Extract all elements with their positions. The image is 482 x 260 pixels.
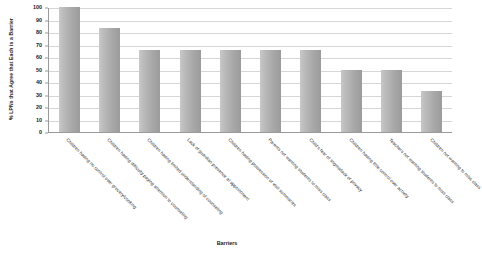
x-axis-title: Barriers bbox=[0, 240, 454, 246]
y-axis-tick-label: 10 bbox=[36, 118, 42, 123]
bar[interactable] bbox=[59, 7, 80, 132]
bar[interactable] bbox=[341, 70, 362, 133]
y-axis-title: % LPNs that Agree that Each is a Barrier bbox=[2, 0, 20, 138]
bar[interactable] bbox=[421, 91, 442, 132]
bar-slot bbox=[250, 8, 290, 132]
y-axis-tick-label: 70 bbox=[36, 43, 42, 48]
x-axis-tick-label: Children having little control over acti… bbox=[331, 136, 371, 236]
y-axis-tick-label: 0 bbox=[39, 130, 42, 135]
x-axis-tick-labels: Children having no control over grocery/… bbox=[48, 136, 452, 236]
x-axis-tick-label: Teachers not wanting students to miss cl… bbox=[371, 136, 411, 236]
x-axis-tick-label: Children not wanting to miss class bbox=[412, 136, 452, 236]
bar[interactable] bbox=[180, 50, 201, 133]
bar[interactable] bbox=[99, 28, 120, 132]
plot-wrapper: 1009080706050403020100 bbox=[24, 8, 452, 136]
bar[interactable] bbox=[220, 50, 241, 133]
x-axis-tick-label: Parents not wanting students to miss cla… bbox=[250, 136, 290, 236]
y-axis-tick-label: 20 bbox=[36, 105, 42, 110]
y-axis-tick-label: 60 bbox=[36, 55, 42, 60]
bar[interactable] bbox=[260, 50, 281, 133]
bar-slot bbox=[371, 8, 411, 132]
y-axis-tick-labels: 1009080706050403020100 bbox=[24, 8, 44, 136]
x-axis-tick-label-text: Children not wanting to miss class bbox=[429, 138, 481, 190]
bar-slot bbox=[331, 8, 371, 132]
bar-slot bbox=[89, 8, 129, 132]
y-axis-tick-label: 80 bbox=[36, 30, 42, 35]
bars-layer bbox=[49, 8, 452, 132]
x-axis-tick-label: Lack of guardian presence at appointment bbox=[169, 136, 209, 236]
bar-slot bbox=[130, 8, 170, 132]
x-axis-tick-label: Children having difficulty paying attent… bbox=[88, 136, 128, 236]
y-axis-title-text: % LPNs that Agree that Each is a Barrier bbox=[8, 18, 14, 120]
x-axis-tick-label: Child's fear of stigma/lack of privacy bbox=[290, 136, 330, 236]
y-axis-tick-label: 100 bbox=[33, 5, 42, 10]
bar-slot bbox=[49, 8, 89, 132]
bar[interactable] bbox=[300, 50, 321, 133]
bar-slot bbox=[170, 8, 210, 132]
x-axis-tick-label: Children having no control over grocery/… bbox=[48, 136, 88, 236]
bar-slot bbox=[291, 8, 331, 132]
bar-slot bbox=[412, 8, 452, 132]
plot-area bbox=[48, 8, 452, 133]
y-axis-tick-label: 40 bbox=[36, 80, 42, 85]
x-axis-tick-label: Children having possession of visit summ… bbox=[210, 136, 250, 236]
x-axis-tick-label: Children having limited understanding of… bbox=[129, 136, 169, 236]
y-axis-tick-label: 90 bbox=[36, 18, 42, 23]
y-axis-tick-label: 50 bbox=[36, 68, 42, 73]
bar[interactable] bbox=[381, 70, 402, 133]
y-axis-tick-label: 30 bbox=[36, 93, 42, 98]
bar-slot bbox=[210, 8, 250, 132]
bar[interactable] bbox=[139, 50, 160, 133]
